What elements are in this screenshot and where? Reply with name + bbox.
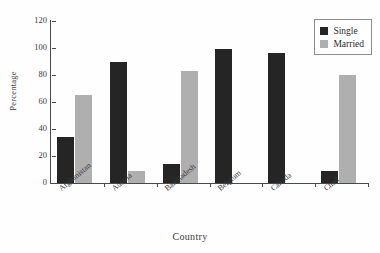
bar-single-belgium <box>215 49 232 183</box>
x-tick-mark <box>315 183 316 187</box>
bar-chart: Percentage Country 020406080100120 Afgha… <box>0 0 380 253</box>
y-tick: 0 <box>0 183 56 184</box>
x-tick-mark <box>104 183 105 187</box>
legend-label: Married <box>333 39 364 49</box>
y-axis-title: Percentage <box>8 46 18 136</box>
y-tick: 20 <box>0 156 56 157</box>
y-tick-label: 0 <box>43 177 47 187</box>
y-tick-mark <box>52 183 56 184</box>
y-tick-label: 20 <box>39 150 48 160</box>
y-tick-label: 120 <box>34 15 47 25</box>
bar-single-canada <box>268 53 285 183</box>
legend-swatch-icon <box>320 27 328 35</box>
y-tick-label: 40 <box>39 123 48 133</box>
x-tick-mark <box>157 183 158 187</box>
legend-item-married: Married <box>320 37 364 50</box>
bar-single-austria <box>110 62 127 184</box>
y-tick: 60 <box>0 102 56 103</box>
x-tick-mark <box>262 183 263 187</box>
y-tick-label: 100 <box>34 42 47 52</box>
legend-label: Single <box>333 26 357 36</box>
y-tick: 80 <box>0 75 56 76</box>
y-tick: 40 <box>0 129 56 130</box>
bar-married-chad <box>339 75 356 183</box>
x-axis-title: Country <box>0 231 380 242</box>
legend: SingleMarried <box>314 19 372 55</box>
x-tick-mark <box>368 183 369 187</box>
y-tick: 100 <box>0 48 56 49</box>
y-tick-label: 80 <box>39 69 48 79</box>
x-tick-mark <box>210 183 211 187</box>
legend-item-single: Single <box>320 24 364 37</box>
y-tick-label: 60 <box>39 96 48 106</box>
legend-swatch-icon <box>320 40 328 48</box>
y-tick: 120 <box>0 21 56 22</box>
